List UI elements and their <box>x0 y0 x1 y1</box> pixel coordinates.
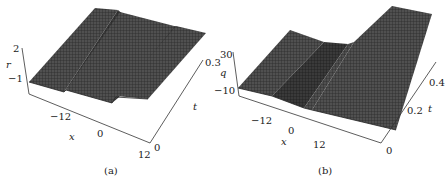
t-axis-label: t <box>428 104 432 114</box>
z-axis-label: r <box>6 60 11 70</box>
x-tick-neg: −12 <box>50 112 71 122</box>
x-axis-label: x <box>281 137 287 147</box>
chart-panel-a: 2 r −1 −12 x 0 12 0 t 0.3 (a) <box>0 0 224 186</box>
x-axis-label: x <box>69 132 75 142</box>
x-tick-zero: 0 <box>288 126 294 136</box>
t-tick-max: 0.4 <box>429 78 445 88</box>
x-tick-neg: −12 <box>251 116 272 126</box>
t-tick-0: 0 <box>386 146 392 156</box>
x-axis-line <box>29 94 150 143</box>
z-tick-top: 30 <box>220 50 233 60</box>
t-tick-max: 0.3 <box>205 58 221 68</box>
t-axis-label: t <box>193 102 197 112</box>
t-tick-0: 0 <box>154 143 160 153</box>
surface-plot-a <box>0 0 224 186</box>
z-axis-line <box>22 48 29 94</box>
t-tick-mid: 0.2 <box>407 106 423 116</box>
x-tick-pos: 12 <box>313 140 326 150</box>
x-tick-zero: 0 <box>97 129 103 139</box>
x-tick-pos: 12 <box>138 150 151 160</box>
z-axis-label: q <box>220 68 226 78</box>
caption-a: (a) <box>104 165 118 176</box>
z-tick-top: 2 <box>13 44 19 54</box>
z-tick-bottom: −10 <box>214 86 235 96</box>
surface-plot-b <box>224 0 447 186</box>
chart-panel-b: 30 q −10 −12 0 x 12 0 0.2 t 0.4 (b) <box>224 0 447 186</box>
z-tick-bottom: −1 <box>8 74 23 84</box>
caption-b: (b) <box>318 165 332 176</box>
